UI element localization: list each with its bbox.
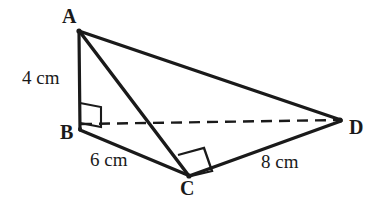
vertex-label-B: B xyxy=(60,122,73,142)
vertex-point-B xyxy=(78,127,82,131)
vertex-label-C: C xyxy=(180,178,194,198)
measurement-label-BC: 6 cm xyxy=(90,150,127,169)
vertex-label-A: A xyxy=(62,6,76,26)
vertex-point-D xyxy=(337,117,342,122)
vertex-point-A xyxy=(76,28,81,33)
measurement-label-CD: 8 cm xyxy=(261,152,298,171)
measurement-label-AB: 4 cm xyxy=(22,68,59,87)
geometry-diagram xyxy=(0,0,379,205)
edge-BD xyxy=(81,120,339,124)
vertex-label-D: D xyxy=(349,117,363,137)
edge-AD xyxy=(79,31,341,120)
geometry-figure: A B C D 4 cm 6 cm 8 cm xyxy=(0,0,379,205)
edge-AB xyxy=(79,32,80,130)
